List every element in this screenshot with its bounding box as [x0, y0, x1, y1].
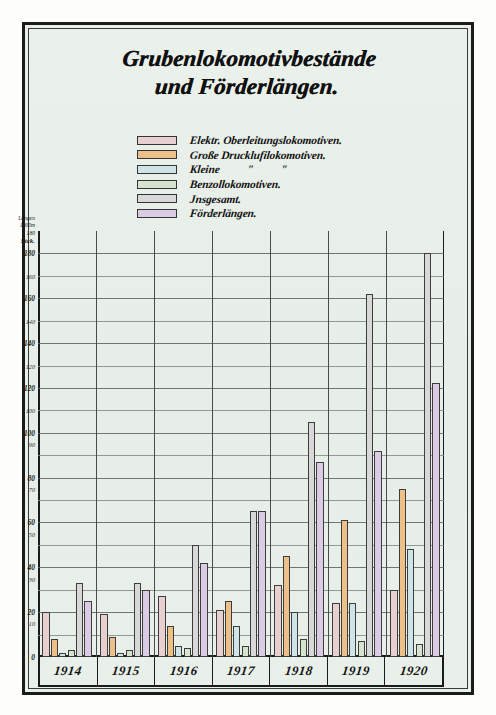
y-tick-length: 90	[29, 441, 35, 448]
y-tick-length: 50	[29, 530, 35, 537]
legend-label: Elektr. Oberleitungslokomotiven.	[189, 134, 342, 146]
bar	[225, 601, 232, 657]
bar	[100, 614, 107, 657]
chart-legend: Elektr. Oberleitungslokomotiven.Große Dr…	[137, 133, 342, 221]
bar	[258, 511, 265, 657]
x-axis-year-cell: 1915	[98, 657, 156, 685]
x-axis-year-label: 1918	[284, 663, 314, 679]
bar	[390, 590, 397, 657]
bar	[175, 646, 182, 657]
bar	[242, 646, 249, 657]
legend-item: Jnsgesamt.	[137, 191, 342, 206]
y-tick-count: 160	[24, 294, 35, 303]
x-axis-year-cell: 1919	[328, 657, 386, 685]
legend-item: Elektr. Oberleitungslokomotiven.	[137, 133, 342, 148]
bar	[341, 520, 348, 657]
legend-swatch-icon	[137, 165, 177, 174]
legend-item: Große Drucklufilokomotiven.	[137, 148, 342, 163]
y-tick-count: 80	[28, 473, 35, 482]
y-tick-length: 100	[26, 407, 35, 414]
x-axis-year-label: 1920	[399, 663, 429, 679]
bar-group	[154, 231, 212, 657]
bar-group	[270, 231, 328, 657]
bar	[424, 253, 431, 657]
y-tick-count: 20	[28, 608, 35, 617]
y-tick-length: 140	[26, 317, 35, 324]
legend-swatch-icon	[137, 194, 177, 203]
y-axis-unit-label: Stck.	[21, 237, 35, 245]
bar	[216, 610, 223, 657]
bar	[250, 511, 257, 657]
bar	[42, 612, 49, 657]
legend-label: Große Drucklufilokomotiven.	[189, 149, 326, 161]
bar	[76, 583, 83, 657]
legend-label: Förderlängen.	[189, 207, 257, 219]
legend-label: Benzollokomotiven.	[189, 178, 281, 190]
bar	[416, 644, 423, 657]
bar	[316, 462, 323, 657]
legend-swatch-icon	[137, 209, 177, 218]
bar	[200, 563, 207, 657]
x-axis-year-band: 1914191519161917191819191920	[38, 657, 444, 687]
legend-label: Jnsgesamt.	[189, 193, 241, 205]
legend-swatch-icon	[137, 180, 177, 189]
legend-item: Kleine " "	[137, 162, 342, 177]
y-axis-unit-label: Längen	[18, 215, 35, 221]
x-axis-year-cell: 1914	[40, 657, 98, 685]
bar	[407, 549, 414, 657]
legend-swatch-icon	[137, 136, 177, 145]
bar	[192, 545, 199, 657]
bar	[274, 585, 281, 657]
plot-area: 1801601401201008060402001601401201009070…	[38, 231, 444, 657]
x-axis-year-label: 1914	[53, 663, 83, 679]
y-tick-length: 120	[26, 362, 35, 369]
x-axis-year-cell: 1916	[155, 657, 213, 685]
bar	[291, 612, 298, 657]
y-tick-count: 140	[24, 339, 35, 348]
y-tick-length: 70	[29, 485, 35, 492]
legend-item: Benzollokomotiven.	[137, 177, 342, 192]
bar	[432, 383, 439, 657]
bar	[349, 603, 356, 657]
title-line-1: Grubenlokomotivbestände	[121, 46, 377, 71]
y-tick-count: 180	[24, 249, 35, 258]
bar	[233, 626, 240, 657]
bar	[109, 637, 116, 657]
bar	[142, 590, 149, 657]
bar-group	[386, 231, 444, 657]
bar	[68, 650, 75, 657]
bar	[134, 583, 141, 657]
bar	[358, 641, 365, 657]
bar-group	[38, 231, 96, 657]
y-tick-length: 30	[29, 575, 35, 582]
x-axis-year-cell: 1918	[270, 657, 328, 685]
x-axis-year-cell: 1917	[213, 657, 271, 685]
plate-sheet: Grubenlokomotivbestände und Förderlängen…	[0, 0, 496, 715]
bar	[332, 603, 339, 657]
y-tick-count: 60	[28, 518, 35, 527]
y-tick-length: 160	[26, 272, 35, 279]
y-tick-count: 0	[31, 653, 35, 662]
x-axis-year-cell: 1920	[385, 657, 442, 685]
bar-group	[96, 231, 154, 657]
bar	[126, 650, 133, 657]
bar	[167, 626, 174, 657]
title-line-2: und Förderlängen.	[27, 73, 467, 101]
bar	[158, 596, 165, 657]
bar	[84, 601, 91, 657]
bar-group	[328, 231, 386, 657]
x-axis-year-label: 1916	[169, 663, 199, 679]
bar-group	[212, 231, 270, 657]
y-tick-count: 120	[24, 383, 35, 392]
x-axis-year-label: 1917	[226, 663, 256, 679]
y-axis-unit-label: 180	[27, 230, 35, 236]
legend-item: Förderlängen.	[137, 206, 342, 221]
y-tick-length: 10	[29, 620, 35, 627]
bar	[399, 489, 406, 657]
legend-swatch-icon	[137, 150, 177, 159]
y-axis-unit-label: 1000m	[20, 222, 35, 228]
bar	[51, 639, 58, 657]
y-tick-count: 100	[24, 428, 35, 437]
y-tick-count: 40	[28, 563, 35, 572]
bar	[366, 294, 373, 657]
